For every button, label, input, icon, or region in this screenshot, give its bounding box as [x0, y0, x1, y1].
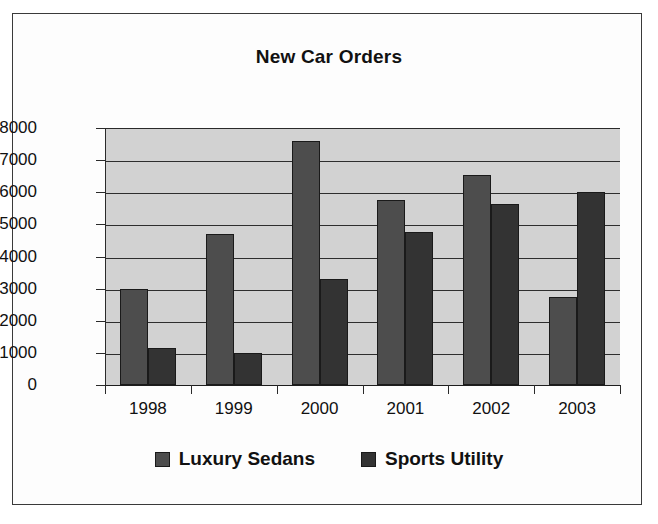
- y-tick-mark-2000: [96, 321, 105, 322]
- legend-item-luxury-sedans[interactable]: Luxury Sedans: [155, 448, 315, 470]
- y-tick-mark-6000: [96, 192, 105, 193]
- legend-swatch-icon: [155, 452, 170, 467]
- y-tick-label-5000: 5000: [0, 215, 37, 232]
- bar-sports-utility-2000: [320, 279, 348, 385]
- bar-luxury-sedans-1999: [206, 234, 234, 385]
- x-tick-label-2002: 2002: [448, 399, 534, 418]
- legend-swatch-icon: [361, 452, 376, 467]
- x-tick-label-2001: 2001: [363, 399, 449, 418]
- bar-sports-utility-2003: [577, 192, 605, 385]
- bar-sports-utility-1999: [234, 353, 262, 385]
- y-tick-label-2000: 2000: [0, 312, 37, 329]
- bar-luxury-sedans-2001: [377, 200, 405, 385]
- x-tick-mark-2001: [363, 385, 364, 394]
- y-tick-label-7000: 7000: [0, 151, 37, 168]
- y-tick-label-8000: 8000: [0, 119, 37, 136]
- x-tick-label-1999: 1999: [191, 399, 277, 418]
- legend-label: Luxury Sedans: [179, 448, 315, 470]
- x-tick-label-1998: 1998: [105, 399, 191, 418]
- chart-legend: Luxury SedansSports Utility: [0, 448, 658, 470]
- bars-layer: [105, 128, 620, 385]
- legend-item-sports-utility[interactable]: Sports Utility: [361, 448, 503, 470]
- y-tick-mark-7000: [96, 160, 105, 161]
- y-axis: 010002000300040005000600070008000: [0, 0, 105, 524]
- bar-luxury-sedans-2000: [292, 141, 320, 385]
- bar-sports-utility-1998: [148, 348, 176, 385]
- y-tick-mark-0: [96, 385, 105, 386]
- bar-luxury-sedans-2002: [463, 175, 491, 385]
- y-tick-label-1000: 1000: [0, 344, 37, 361]
- bar-luxury-sedans-1998: [120, 289, 148, 385]
- y-tick-mark-1000: [96, 353, 105, 354]
- y-tick-mark-4000: [96, 257, 105, 258]
- y-tick-label-6000: 6000: [0, 183, 37, 200]
- x-tick-mark-end: [620, 385, 621, 394]
- legend-label: Sports Utility: [385, 448, 503, 470]
- bar-sports-utility-2001: [405, 232, 433, 385]
- x-tick-mark-2002: [448, 385, 449, 394]
- x-tick-mark-2003: [534, 385, 535, 394]
- x-tick-mark-1999: [191, 385, 192, 394]
- y-tick-label-0: 0: [28, 376, 37, 393]
- bar-luxury-sedans-2003: [549, 297, 577, 385]
- x-tick-label-2000: 2000: [277, 399, 363, 418]
- x-tick-mark-2000: [277, 385, 278, 394]
- y-tick-label-3000: 3000: [0, 280, 37, 297]
- bar-sports-utility-2002: [491, 204, 519, 386]
- x-tick-label-2003: 2003: [534, 399, 620, 418]
- y-tick-mark-5000: [96, 224, 105, 225]
- x-tick-mark-1998: [105, 385, 106, 394]
- y-tick-label-4000: 4000: [0, 248, 37, 265]
- y-tick-mark-3000: [96, 289, 105, 290]
- x-axis: 199819992000200120022003: [105, 385, 620, 435]
- y-tick-mark-8000: [96, 128, 105, 129]
